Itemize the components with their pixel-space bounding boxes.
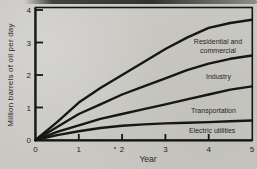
y-tick-label: 3 bbox=[27, 39, 32, 48]
x-tick-label: 2 bbox=[120, 145, 125, 154]
series-label-transportation: Transportation bbox=[191, 106, 236, 115]
x-tick-label: 4 bbox=[206, 145, 211, 154]
figure-canvas: Million barrels of oil per day 012340123… bbox=[0, 0, 257, 169]
x-tick-label: 0 bbox=[33, 145, 38, 154]
y-tick-label: 2 bbox=[27, 71, 32, 80]
series-label-industry: Industry bbox=[206, 72, 231, 81]
x-tick-label: 3 bbox=[163, 145, 168, 154]
chart-plot: 01234012345 bbox=[0, 0, 257, 169]
x-tick-label: 1 bbox=[77, 145, 82, 154]
x-axis-title: Year bbox=[128, 154, 168, 164]
series-label-electric-utilities: Electric utilities bbox=[189, 126, 235, 135]
scan-speck bbox=[114, 147, 116, 149]
y-tick-label: 1 bbox=[27, 104, 32, 113]
x-tick-label: 5 bbox=[250, 145, 255, 154]
series-label-residential-and-commercial: Residential and commercial bbox=[186, 37, 250, 55]
y-tick-label: 4 bbox=[27, 6, 32, 15]
y-tick-label: 0 bbox=[27, 136, 32, 145]
